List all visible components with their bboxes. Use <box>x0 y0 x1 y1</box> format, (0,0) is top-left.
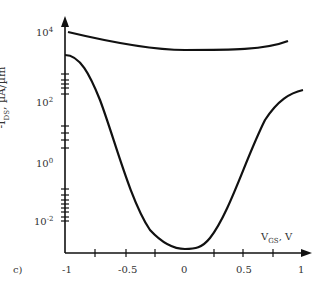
xtick-label: 0 <box>181 264 187 275</box>
upper-curve <box>68 32 288 50</box>
ytick-label-1e0: 100 <box>36 157 53 169</box>
xtick-label: -0.5 <box>118 264 137 275</box>
x-axis-title: VGS, V <box>261 231 292 245</box>
y-axis-arrow-icon <box>61 16 69 27</box>
xtick-label: -1 <box>62 264 72 275</box>
ytick-label-1e2: 102 <box>36 96 53 108</box>
lower-curve <box>65 55 303 249</box>
ytick-label-1e-2: 10-2 <box>34 215 54 227</box>
panel-label: c) <box>13 264 23 275</box>
x-axis-arrow-icon <box>301 249 312 257</box>
xtick-label: 0.5 <box>236 264 252 275</box>
chart-plot <box>0 0 322 290</box>
ytick-label-1e4: 104 <box>36 26 53 38</box>
xtick-label: 1 <box>298 264 304 275</box>
y-axis-title: -IDS, µA/µm <box>0 67 11 129</box>
